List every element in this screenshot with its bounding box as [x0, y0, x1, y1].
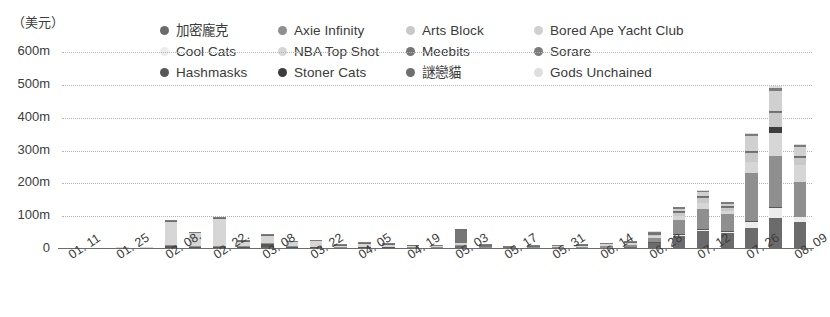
bar-segment — [794, 158, 807, 165]
y-axis-tick-label: 300m — [0, 142, 50, 157]
legend-swatch-icon — [160, 26, 169, 35]
plot-area: 0100m200m300m400m500m600m — [62, 52, 812, 249]
legend-swatch-icon — [278, 26, 287, 35]
legend-item-label: 加密龐克 — [176, 24, 228, 38]
bar-column[interactable] — [697, 190, 710, 249]
y-axis-tick-label: 600m — [0, 43, 50, 58]
legend-swatch-icon — [534, 26, 543, 35]
y-axis-tick-label: 200m — [0, 174, 50, 189]
y-axis-tick-label: 100m — [0, 207, 50, 222]
bar-column[interactable] — [769, 86, 782, 249]
legend-item-label: Bored Ape Yacht Club — [550, 24, 684, 38]
x-axis-ticks: 01. 1101. 2502. 08.02. 22.03. 0803. 2204… — [62, 250, 812, 310]
y-axis-tick-label: 0 — [0, 240, 50, 255]
legend-item[interactable]: Bored Ape Yacht Club — [534, 20, 704, 41]
bar-segment — [769, 91, 782, 111]
bar-column[interactable] — [745, 133, 758, 249]
bar-segment — [794, 182, 807, 216]
legend-item-label: Axie Infinity — [294, 24, 364, 38]
bar-series-group — [62, 52, 812, 249]
bar-segment — [769, 113, 782, 127]
bar-column[interactable] — [794, 144, 807, 249]
bar-segment — [769, 133, 782, 156]
legend-item[interactable]: Arts Block — [406, 20, 534, 41]
legend-item[interactable]: Axie Infinity — [278, 20, 406, 41]
bar-segment — [745, 153, 758, 162]
bar-segment — [745, 173, 758, 221]
bar-segment — [769, 208, 782, 218]
bar-segment — [721, 214, 734, 231]
bar-segment — [794, 147, 807, 156]
legend-swatch-icon — [406, 26, 415, 35]
y-axis-unit-label: （美元） — [12, 12, 64, 31]
bar-segment — [769, 156, 782, 207]
bar-segment — [745, 136, 758, 151]
legend-item[interactable]: 加密龐克 — [160, 20, 278, 41]
bar-segment — [745, 162, 758, 173]
legend-item-label: Arts Block — [422, 24, 484, 38]
y-axis-tick-label: 400m — [0, 109, 50, 124]
bar-segment — [697, 209, 710, 229]
bar-segment — [794, 165, 807, 182]
y-axis-tick-label: 500m — [0, 76, 50, 91]
